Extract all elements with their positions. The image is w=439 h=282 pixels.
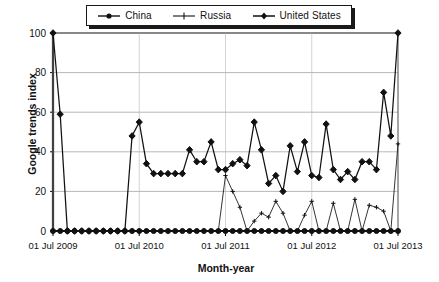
legend-item-russia: Russia — [172, 10, 231, 21]
series-china-point — [388, 229, 393, 234]
series-united-states-point — [64, 228, 70, 235]
series-united-states-point — [115, 228, 121, 235]
x-tick-label-1: 01 Jul 2010 — [115, 240, 164, 251]
plus-marker-icon — [172, 11, 196, 21]
series-china-point — [396, 229, 401, 234]
series-united-states-point — [129, 133, 135, 140]
series-united-states-point — [107, 228, 113, 235]
series-united-states-point — [100, 228, 106, 235]
series-united-states-point — [201, 158, 207, 165]
series-china-point — [259, 229, 264, 234]
series-china-point — [374, 229, 379, 234]
diamond-marker-icon — [252, 11, 276, 21]
chart-legend: China Russia United States — [86, 5, 352, 26]
circle-marker-icon — [97, 11, 121, 21]
series-china-point — [201, 229, 206, 234]
legend-label-united-states: United States — [280, 10, 341, 21]
series-united-states-point — [301, 139, 307, 146]
series-united-states-point — [93, 228, 99, 235]
series-china-point — [173, 229, 178, 234]
legend-item-china: China — [97, 10, 152, 21]
series-united-states-point — [71, 228, 77, 235]
series-china-point — [137, 229, 142, 234]
series-china-point — [158, 229, 163, 234]
x-tick-label-3: 01 Jul 2012 — [287, 240, 336, 251]
series-china-point — [281, 229, 286, 234]
series-china-point — [302, 229, 307, 234]
series-china-point — [130, 229, 135, 234]
series-china-point — [331, 229, 336, 234]
series-china-point — [216, 229, 221, 234]
series-united-states-point — [287, 143, 293, 150]
plot-area: 02040608010001 Jul 200901 Jul 201001 Jul… — [0, 0, 439, 282]
series-china-point — [166, 229, 171, 234]
series-china-point — [252, 229, 257, 234]
x-tick-label-2: 01 Jul 2011 — [201, 240, 249, 251]
series-china-point — [273, 229, 278, 234]
y-tick-label-20: 20 — [35, 186, 47, 197]
series-china-point — [288, 229, 293, 234]
series-united-states-point — [165, 170, 171, 177]
series-united-states-point — [395, 30, 401, 37]
series-china-point — [345, 229, 350, 234]
series-united-states-point — [158, 170, 164, 177]
series-china-point — [245, 229, 250, 234]
series-china-point — [194, 229, 199, 234]
series-united-states-point — [381, 89, 387, 96]
series-united-states-point — [50, 30, 56, 37]
series-united-states-point — [323, 121, 329, 128]
series-china-point — [209, 229, 214, 234]
series-united-states-point — [309, 172, 315, 179]
series-china-point — [180, 229, 185, 234]
series-china-point — [58, 229, 63, 234]
x-tick-label-0: 01 Jul 2009 — [28, 240, 77, 251]
series-china-point — [223, 229, 228, 234]
series-china-point — [360, 229, 365, 234]
series-china-point — [316, 229, 321, 234]
series-china-point — [237, 229, 242, 234]
series-united-states-point — [316, 174, 322, 181]
series-united-states-point — [122, 228, 128, 235]
y-tick-label-0: 0 — [40, 226, 46, 237]
series-china-point — [367, 229, 372, 234]
y-tick-label-40: 40 — [35, 146, 47, 157]
y-tick-label-100: 100 — [29, 28, 46, 39]
series-china-point — [144, 229, 149, 234]
legend-label-china: China — [125, 10, 152, 21]
series-united-states-point — [359, 158, 365, 165]
series-united-states-point — [208, 139, 214, 146]
legend-label-russia: Russia — [200, 10, 231, 21]
y-tick-label-80: 80 — [35, 67, 47, 78]
series-china-point — [266, 229, 271, 234]
series-united-states-point — [251, 119, 257, 126]
series-united-states-point — [172, 170, 178, 177]
x-tick-label-4: 01 Jul 2013 — [373, 240, 422, 251]
y-tick-label-60: 60 — [35, 107, 47, 118]
series-united-states-point — [194, 158, 200, 165]
chart-screenshot: China Russia United States Google trends… — [0, 0, 439, 282]
series-china-point — [187, 229, 192, 234]
series-china-point — [295, 229, 300, 234]
series-united-states-point — [86, 228, 92, 235]
series-united-states-point — [294, 168, 300, 175]
chart-canvas: 02040608010001 Jul 200901 Jul 201001 Jul… — [0, 0, 439, 282]
series-united-states-point — [280, 188, 286, 195]
series-china-point — [381, 229, 386, 234]
series-united-states-point — [136, 119, 142, 126]
series-china-point — [151, 229, 156, 234]
series-united-states-point — [179, 170, 185, 177]
series-united-states-point — [215, 166, 221, 173]
series-united-states-point — [79, 228, 85, 235]
series-china-point — [309, 229, 314, 234]
series-china-point — [338, 229, 343, 234]
series-china-point — [230, 229, 235, 234]
series-united-states-point — [388, 133, 394, 140]
series-china-point — [51, 229, 56, 234]
legend-item-united-states: United States — [252, 10, 341, 21]
series-china-point — [352, 229, 357, 234]
series-china-point — [324, 229, 329, 234]
